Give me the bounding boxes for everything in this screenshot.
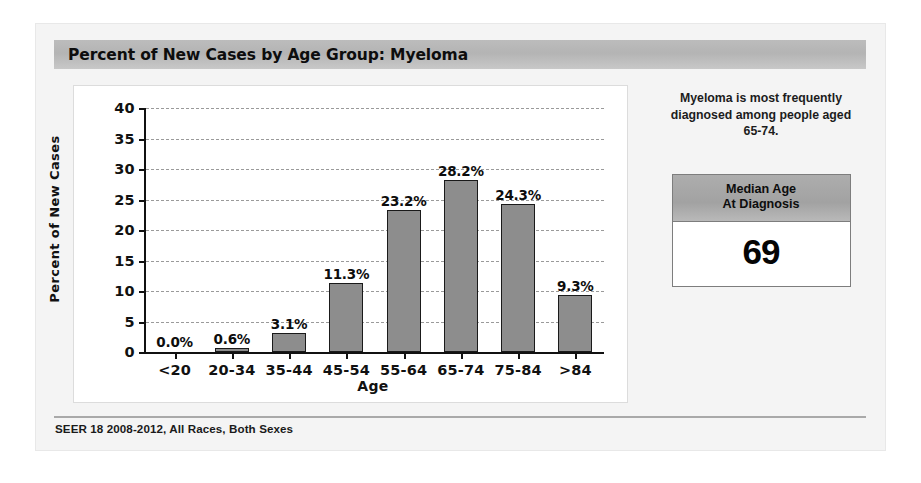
y-axis-tick-label: 0	[125, 344, 135, 360]
x-axis-tick-label: >84	[559, 362, 592, 378]
x-axis-tick	[175, 352, 177, 359]
y-axis-tick-label: 40	[114, 100, 135, 116]
chart-plot-panel: Percent of New Cases 0510152025303540 0.…	[74, 86, 627, 402]
bar[interactable]: 28.2%	[444, 180, 478, 352]
page-title: Percent of New Cases by Age Group: Myelo…	[54, 46, 468, 64]
bar-value-label: 3.1%	[271, 316, 308, 332]
bar-value-label: 11.3%	[323, 266, 369, 282]
bar-slot: 24.3%75-84	[490, 108, 547, 352]
x-axis-tick	[289, 352, 291, 359]
y-axis-tick	[139, 200, 146, 202]
median-age-value: 69	[673, 222, 850, 286]
y-axis-tick	[139, 139, 146, 141]
bar-value-label: 23.2%	[381, 193, 427, 209]
x-axis-tick	[232, 352, 234, 359]
bar-slot: 28.2%65-74	[432, 108, 489, 352]
plot-area: 0510152025303540 0.0%<200.6%20-343.1%35-…	[144, 108, 604, 354]
bar[interactable]: 24.3%	[501, 204, 535, 352]
x-axis-tick	[461, 352, 463, 359]
x-axis-tick-label: 75-84	[494, 362, 541, 378]
annotation-text: Myeloma is most frequently diagnosed amo…	[663, 90, 859, 140]
side-panel: Myeloma is most frequently diagnosed amo…	[661, 90, 861, 287]
bar-value-label: 0.6%	[214, 331, 251, 347]
bar-slot: 3.1%35-44	[261, 108, 318, 352]
x-axis-tick-label: 35-44	[265, 362, 312, 378]
y-axis-tick-label: 20	[114, 222, 135, 238]
y-axis-tick	[139, 230, 146, 232]
x-axis-tick-label: 45-54	[323, 362, 370, 378]
x-axis-tick-label: 20-34	[208, 362, 255, 378]
y-axis-tick	[139, 169, 146, 171]
bar-value-label: 9.3%	[557, 278, 594, 294]
y-axis-tick-label: 25	[114, 192, 135, 208]
bar[interactable]: 11.3%	[329, 283, 363, 352]
x-axis-tick	[346, 352, 348, 359]
bar[interactable]: 23.2%	[387, 210, 421, 352]
x-axis-tick	[404, 352, 406, 359]
y-axis-tick-label: 30	[114, 161, 135, 177]
y-axis-tick-label: 10	[114, 283, 135, 299]
x-axis-title: Age	[144, 378, 602, 394]
y-axis-tick	[139, 322, 146, 324]
median-age-header-line-2: At Diagnosis	[675, 197, 848, 213]
y-axis-tick	[139, 352, 146, 354]
bar-value-label: 24.3%	[495, 187, 541, 203]
y-axis-tick-label: 15	[114, 253, 135, 269]
y-axis-tick	[139, 291, 146, 293]
x-axis-tick-label: 55-64	[380, 362, 427, 378]
bar[interactable]: 9.3%	[558, 295, 592, 352]
median-age-header-line-1: Median Age	[675, 182, 848, 198]
chart-title-bar: Percent of New Cases by Age Group: Myelo…	[54, 40, 866, 69]
bar-slot: 0.6%20-34	[203, 108, 260, 352]
chart-card: Percent of New Cases by Age Group: Myelo…	[36, 24, 885, 450]
y-axis-tick-label: 35	[114, 131, 135, 147]
bars-group: 0.0%<200.6%20-343.1%35-4411.3%45-5423.2%…	[146, 108, 604, 352]
x-axis-tick-label: <20	[158, 362, 191, 378]
bar[interactable]: 3.1%	[272, 333, 306, 352]
footer-source-text: SEER 18 2008-2012, All Races, Both Sexes	[55, 422, 293, 435]
bar-slot: 9.3%>84	[547, 108, 604, 352]
bar-slot: 0.0%<20	[146, 108, 203, 352]
x-axis-tick	[518, 352, 520, 359]
x-axis-tick	[575, 352, 577, 359]
footer-divider	[54, 416, 866, 418]
y-axis-tick	[139, 108, 146, 110]
y-axis-title: Percent of New Cases	[46, 94, 64, 344]
bar-value-label: 0.0%	[156, 334, 193, 350]
bar-value-label: 28.2%	[438, 163, 484, 179]
x-axis-tick-label: 65-74	[437, 362, 484, 378]
median-age-box-header: Median Age At Diagnosis	[673, 175, 850, 222]
median-age-box: Median Age At Diagnosis 69	[672, 174, 851, 287]
bar-slot: 23.2%55-64	[375, 108, 432, 352]
y-axis-tick	[139, 261, 146, 263]
plot-inner: 0510152025303540 0.0%<200.6%20-343.1%35-…	[146, 108, 604, 352]
bar-slot: 11.3%45-54	[318, 108, 375, 352]
y-axis-tick-label: 5	[125, 314, 135, 330]
